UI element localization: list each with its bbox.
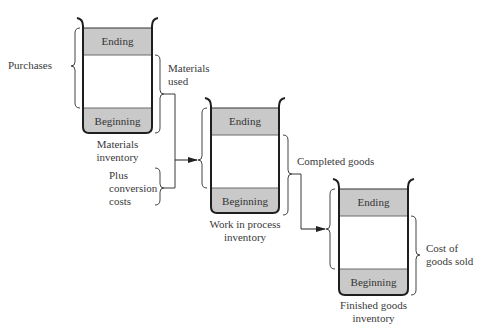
ending-label: Ending: [229, 115, 261, 127]
wip-caption-line1: Work in process: [200, 218, 290, 231]
beginning-label: Beginning: [95, 115, 141, 127]
diagram-graphics: Ending Beginning Ending Beginning Ending…: [0, 0, 492, 335]
conversion-label: conversion: [109, 182, 157, 195]
finished-goods-container: Ending Beginning: [333, 179, 414, 295]
finished-input-brace: [326, 189, 335, 269]
completed-goods-brace: [283, 135, 292, 215]
materials-connector-line: [164, 94, 175, 188]
materials-inventory-caption-line2: inventory: [83, 151, 152, 164]
beginning-label: Beginning: [222, 195, 268, 207]
materials-inventory-container: Ending Beginning: [77, 18, 158, 133]
completed-connector-line: [292, 174, 301, 229]
cogs-label-line1: Cost of: [426, 242, 458, 255]
ending-label: Ending: [358, 196, 390, 208]
wip-input-brace: [198, 108, 207, 188]
wip-caption-line2: inventory: [200, 231, 290, 244]
costs-label: costs: [109, 195, 131, 208]
inventory-flow-diagram: Ending Beginning Ending Beginning Ending…: [0, 0, 492, 335]
materials-used-label-line2: used: [168, 75, 188, 88]
beginning-label: Beginning: [351, 276, 397, 288]
finished-goods-caption-line1: Finished goods: [328, 299, 419, 312]
materials-used-brace: [155, 55, 164, 133]
cogs-brace: [411, 216, 420, 295]
completed-goods-label: Completed goods: [297, 155, 374, 168]
materials-used-label-line1: Materials: [168, 62, 210, 75]
purchases-brace: [71, 28, 80, 108]
wip-inventory-container: Ending Beginning: [205, 98, 285, 213]
materials-inventory-caption-line1: Materials: [83, 138, 152, 151]
purchases-label: Purchases: [8, 59, 52, 72]
cogs-label-line2: goods sold: [426, 255, 473, 268]
ending-label: Ending: [102, 35, 134, 47]
finished-goods-caption-line2: inventory: [328, 312, 419, 325]
plus-label: Plus: [109, 169, 128, 182]
